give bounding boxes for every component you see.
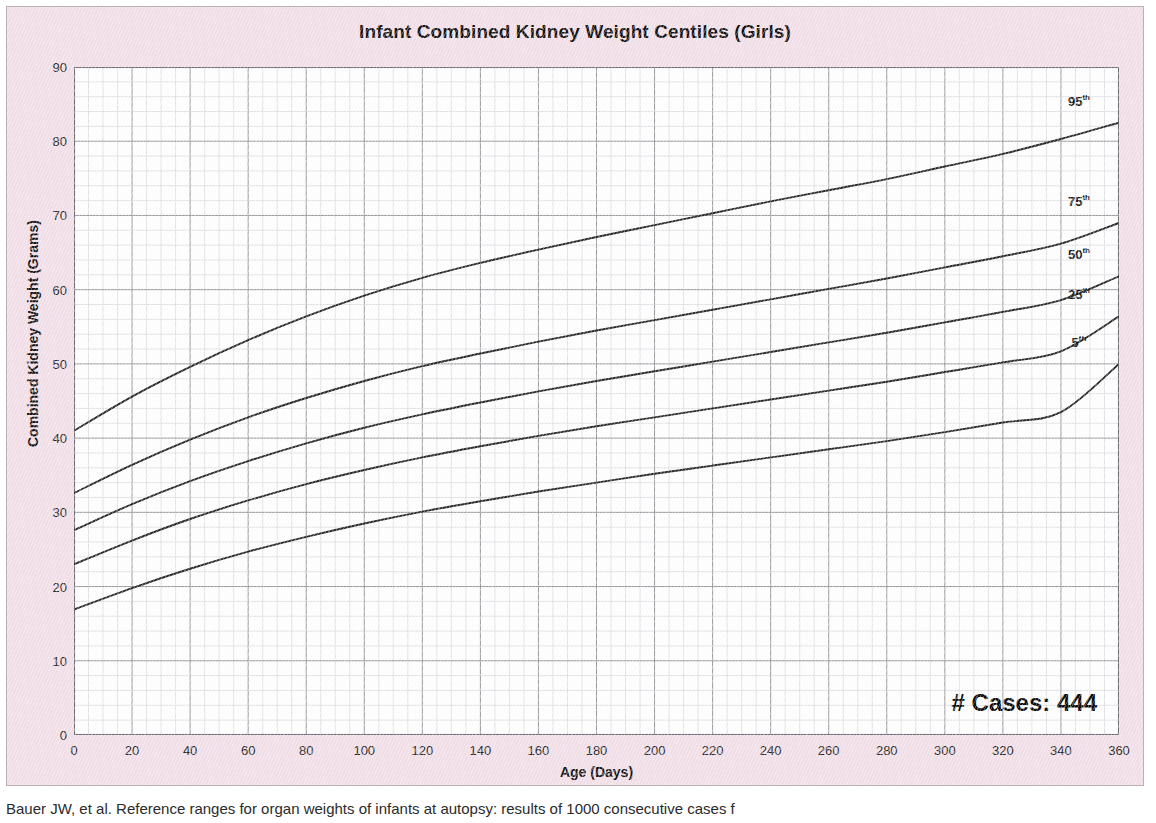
x-tick-label: 20 <box>125 743 139 758</box>
y-tick-label: 0 <box>15 728 67 743</box>
centile-label-25th: 25th <box>1068 287 1090 302</box>
centile-label-value: 75 <box>1068 194 1082 209</box>
x-tick-label: 140 <box>470 743 492 758</box>
y-tick-label: 40 <box>15 431 67 446</box>
centile-label-suffix: th <box>1082 93 1090 102</box>
centile-label-50th: 50th <box>1068 247 1090 262</box>
centile-label-suffix: th <box>1082 247 1090 256</box>
centile-label-suffix: th <box>1082 287 1090 296</box>
chart-figure: Infant Combined Kidney Weight Centiles (… <box>6 6 1144 786</box>
y-tick-label: 70 <box>15 208 67 223</box>
x-tick-label: 100 <box>353 743 375 758</box>
centile-label-value: 50 <box>1068 247 1082 262</box>
x-tick-label: 180 <box>586 743 608 758</box>
x-tick-label: 260 <box>818 743 840 758</box>
x-tick-label: 240 <box>760 743 782 758</box>
cases-annotation: # Cases: 444 <box>952 689 1097 717</box>
centile-label-95th: 95th <box>1068 93 1090 108</box>
x-tick-label: 280 <box>876 743 898 758</box>
x-tick-label: 200 <box>644 743 666 758</box>
centile-label-75th: 75th <box>1068 193 1090 208</box>
y-tick-label: 30 <box>15 505 67 520</box>
y-tick-label: 10 <box>15 653 67 668</box>
x-tick-label: 0 <box>70 743 77 758</box>
centile-label-suffix: th <box>1079 334 1087 343</box>
x-tick-label: 220 <box>702 743 724 758</box>
x-tick-label: 120 <box>411 743 433 758</box>
centile-label-value: 25 <box>1068 287 1082 302</box>
x-tick-label: 320 <box>992 743 1014 758</box>
x-axis-title: Age (Days) <box>74 764 1119 780</box>
x-tick-label: 160 <box>528 743 550 758</box>
plot-area: # Cases: 444 95th75th50th25th5th <box>74 67 1119 735</box>
y-tick-label: 90 <box>15 60 67 75</box>
x-axis-tick-labels: 0204060801001201401601802002202402602803… <box>74 743 1119 763</box>
centile-curves-svg <box>74 67 1119 735</box>
centile-label-suffix: th <box>1082 193 1090 202</box>
x-tick-label: 60 <box>241 743 255 758</box>
figure-caption: Bauer JW, et al. Reference ranges for or… <box>6 800 1156 817</box>
centile-label-value: 95 <box>1068 93 1082 108</box>
y-axis-tick-labels: 0102030405060708090 <box>7 67 67 735</box>
y-tick-label: 60 <box>15 282 67 297</box>
x-tick-label: 340 <box>1050 743 1072 758</box>
y-tick-label: 20 <box>15 579 67 594</box>
y-tick-label: 50 <box>15 356 67 371</box>
x-tick-label: 40 <box>183 743 197 758</box>
centile-label-5th: 5th <box>1072 334 1087 349</box>
y-tick-label: 80 <box>15 134 67 149</box>
x-tick-label: 360 <box>1108 743 1130 758</box>
x-tick-label: 80 <box>299 743 313 758</box>
x-tick-label: 300 <box>934 743 956 758</box>
chart-title: Infant Combined Kidney Weight Centiles (… <box>7 21 1143 43</box>
